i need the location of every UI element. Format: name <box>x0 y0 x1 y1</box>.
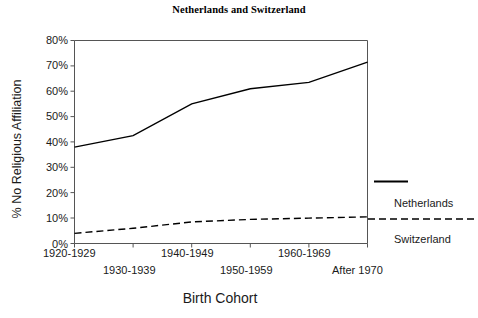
x-axis-ticks <box>75 244 368 248</box>
series-line-netherlands <box>75 62 368 147</box>
plot-canvas <box>0 0 478 318</box>
chart-figure: Netherlands and Switzerland % No Religio… <box>0 0 478 318</box>
series-line-switzerland <box>75 217 368 233</box>
y-axis-ticks <box>71 41 75 244</box>
axis-frame <box>75 41 368 244</box>
